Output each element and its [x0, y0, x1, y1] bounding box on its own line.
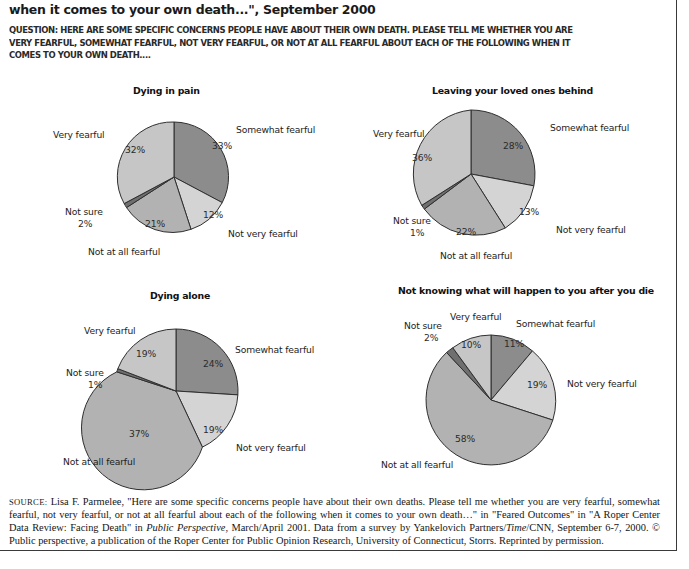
label-not-very-fearful: Not very fearful: [567, 378, 637, 389]
label-somewhat-fearful: Somewhat fearful: [236, 124, 315, 135]
pct-not-very-fearful: 13%: [519, 206, 539, 217]
pct-somewhat-fearful: 28%: [503, 140, 523, 151]
label-not-sure: Not sure: [65, 206, 103, 217]
source-part2: , March/April 2001. Data from a survey b…: [225, 522, 506, 533]
label-not-at-all-fearful: Not at all fearful: [440, 250, 512, 261]
pct-somewhat-fearful: 24%: [203, 358, 223, 369]
label-not-sure: Not sure: [66, 367, 104, 378]
pct-somewhat-fearful: 11%: [504, 338, 524, 349]
source-italic-time: Time: [506, 522, 526, 533]
pct-not-sure: 2%: [424, 332, 438, 343]
label-somewhat-fearful: Somewhat fearful: [516, 318, 595, 329]
source-note: SOURCE: Lisa F. Parmelee, "Here are some…: [9, 496, 660, 548]
pct-very-fearful: 36%: [412, 152, 432, 163]
label-very-fearful: Very fearful: [450, 311, 501, 322]
label-very-fearful: Very fearful: [373, 128, 424, 139]
pct-not-sure: 2%: [78, 218, 92, 229]
label-somewhat-fearful: Somewhat fearful: [235, 344, 314, 355]
chart-title: Dying alone: [150, 290, 210, 301]
pct-not-at-all-fearful: 21%: [145, 218, 165, 229]
label-not-sure: Not sure: [404, 320, 442, 331]
pct-not-at-all-fearful: 22%: [456, 226, 476, 237]
label-not-sure: Not sure: [393, 215, 431, 226]
pct-not-very-fearful: 19%: [527, 379, 547, 390]
question-text: QUESTION: HERE ARE SOME SPECIFIC CONCERN…: [9, 24, 595, 62]
label-not-at-all-fearful: Not at all fearful: [88, 246, 160, 257]
source-label: SOURCE:: [9, 497, 47, 507]
label-not-very-fearful: Not very fearful: [556, 224, 626, 235]
label-not-very-fearful: Not very fearful: [236, 442, 306, 453]
pct-somewhat-fearful: 33%: [212, 140, 232, 151]
label-very-fearful: Very fearful: [53, 129, 104, 140]
label-not-at-all-fearful: Not at all fearful: [63, 456, 135, 467]
pct-not-at-all-fearful: 58%: [455, 433, 475, 444]
label-not-at-all-fearful: Not at all fearful: [381, 459, 453, 470]
chart-title: Leaving your loved ones behind: [432, 85, 593, 96]
pct-very-fearful: 19%: [136, 348, 156, 359]
pie-chart-4: [425, 334, 557, 466]
pct-not-very-fearful: 19%: [203, 424, 223, 435]
pct-not-sure: 1%: [88, 379, 102, 390]
pct-not-at-all-fearful: 37%: [129, 428, 149, 439]
pct-very-fearful: 10%: [461, 339, 481, 350]
source-italic-public-perspective: Public Perspective: [146, 522, 225, 533]
pct-very-fearful: 32%: [125, 144, 145, 155]
label-very-fearful: Very fearful: [84, 325, 135, 336]
label-not-very-fearful: Not very fearful: [228, 228, 298, 239]
page-headline: when it comes to your own death...", Sep…: [9, 2, 649, 17]
chart-title: Dying in pain: [133, 85, 200, 96]
pct-not-very-fearful: 12%: [203, 209, 223, 220]
pct-not-sure: 1%: [410, 227, 424, 238]
label-somewhat-fearful: Somewhat fearful: [550, 122, 629, 133]
chart-title: Not knowing what will happen to you afte…: [398, 285, 654, 296]
